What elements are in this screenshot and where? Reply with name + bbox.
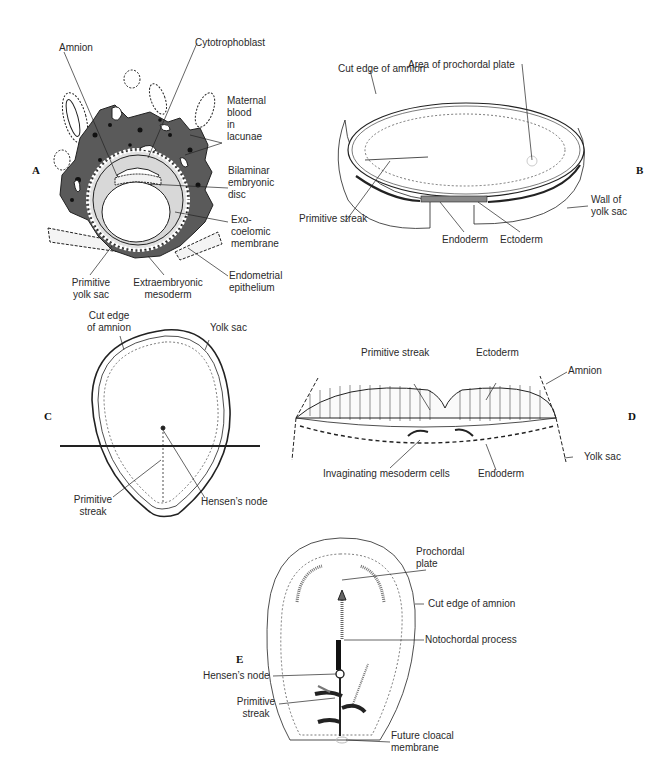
label-extraembryonic-mesoderm: Extraembryonic mesoderm	[128, 277, 208, 301]
label-cut-edge-of-amnion-e: Cut edge of amnion	[428, 598, 515, 610]
label-ectoderm-d: Ectoderm	[476, 347, 519, 359]
label-hensens-node-c: Hensen’s node	[201, 496, 268, 508]
panel-e-drawing	[267, 538, 415, 743]
embryo-figure-drawing	[0, 0, 665, 758]
panel-letter-b: B	[636, 164, 643, 176]
panel-a-drawing	[48, 70, 222, 260]
label-future-cloacal-membrane: Future cloacal membrane	[391, 730, 454, 754]
label-exocoelomic-membrane: Exo- coelomic membrane	[231, 214, 279, 250]
label-notochordal-process: Notochordal process	[425, 634, 517, 646]
label-amnion: Amnion	[59, 42, 93, 54]
label-yolk-sac-d: Yolk sac	[584, 451, 621, 463]
label-bilaminar-disc: Bilaminar embryonic disc	[228, 165, 274, 201]
label-cytotrophoblast: Cytotrophoblast	[195, 37, 265, 49]
label-yolk-sac-c: Yolk sac	[210, 322, 247, 334]
panel-letter-a: A	[32, 164, 40, 176]
label-primitive-streak-d: Primitive streak	[361, 347, 429, 359]
panel-letter-e: E	[236, 653, 243, 665]
panel-d-drawing	[292, 376, 566, 462]
label-prochordal-plate: Prochordal plate	[416, 546, 464, 570]
label-amnion-d: Amnion	[568, 365, 602, 377]
label-invaginating-mesoderm-cells: Invaginating mesoderm cells	[323, 468, 450, 480]
label-primitive-streak-e: Primitive streak	[230, 696, 282, 720]
panel-c-drawing	[60, 330, 260, 517]
label-endometrial-epithelium: Endometrial epithelium	[229, 270, 282, 294]
label-endoderm-d: Endoderm	[478, 468, 524, 480]
label-primitive-yolk-sac: Primitive yolk sac	[56, 277, 126, 301]
label-cut-edge-of-amnion-c: Cut edge of amnion	[76, 310, 142, 334]
label-primitive-streak-c: Primitive streak	[68, 494, 118, 518]
label-endoderm-b: Endoderm	[442, 234, 488, 246]
panel-letter-c: C	[44, 410, 52, 422]
label-ectoderm-b: Ectoderm	[500, 234, 543, 246]
panel-b-drawing	[338, 103, 584, 228]
label-hensens-node-e: Hensen’s node	[203, 670, 270, 682]
label-primitive-streak-b: Primitive streak	[299, 213, 367, 225]
label-area-of-prochordal-plate: Area of prochordal plate	[408, 59, 515, 71]
label-wall-of-yolk-sac: Wall of yolk sac	[591, 194, 627, 218]
label-maternal-blood: Maternal blood in lacunae	[227, 95, 266, 143]
panel-letter-d: D	[628, 410, 636, 422]
